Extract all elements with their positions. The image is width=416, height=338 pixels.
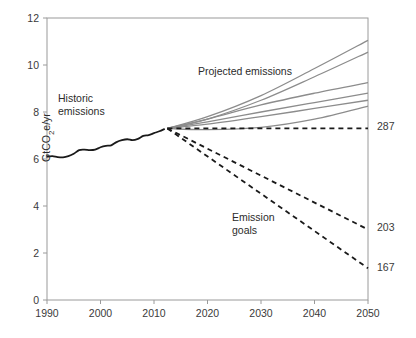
series-projection-d <box>167 93 368 128</box>
x-tick-label-2050: 2050 <box>356 307 380 319</box>
y-axis-title-sub: 2 <box>47 131 56 135</box>
axis-tick-labels: 1990200020102020203020402050024681012 <box>27 12 380 319</box>
series-goal-167 <box>167 128 368 268</box>
annotation-goals-line2: goals <box>232 224 275 237</box>
x-tick-label-2020: 2020 <box>196 307 220 319</box>
series-historic-emissions <box>47 129 165 157</box>
x-tick-label-2040: 2040 <box>303 307 327 319</box>
annotation-goals-line1: Emission <box>232 211 275 224</box>
y-tick-label-8: 8 <box>33 106 39 118</box>
y-axis-title-pre: GtCO <box>40 135 52 162</box>
end-label-287: 287 <box>377 120 395 132</box>
x-tick-label-2030: 2030 <box>249 307 273 319</box>
chart-canvas: 1990200020102020203020402050024681012 <box>0 0 416 338</box>
x-tick-label-2000: 2000 <box>89 307 113 319</box>
y-tick-label-4: 4 <box>33 200 39 212</box>
y-tick-label-2: 2 <box>33 247 39 259</box>
axis-ticks <box>43 18 368 304</box>
y-tick-label-6: 6 <box>33 153 39 165</box>
annotation-emission-goals: Emission goals <box>232 211 275 237</box>
end-label-203: 203 <box>377 221 395 233</box>
y-tick-label-0: 0 <box>33 294 39 306</box>
axes-frame <box>47 18 368 300</box>
emissions-chart-figure: 1990200020102020203020402050024681012 Gt… <box>0 0 416 338</box>
annotation-historic-emissions: Historic emissions <box>58 92 105 118</box>
annotation-historic-line1: Historic <box>58 92 105 105</box>
end-label-167: 167 <box>377 261 395 273</box>
series-projection-b <box>167 52 368 128</box>
x-tick-label-1990: 1990 <box>35 307 59 319</box>
series-projection-f-lowest <box>167 106 368 130</box>
y-axis-title: GtCO2e/yr <box>40 78 55 198</box>
series-projection-c <box>167 83 368 129</box>
annotation-projected-emissions: Projected emissions <box>198 65 292 77</box>
y-tick-label-12: 12 <box>27 12 39 24</box>
annotation-historic-line2: emissions <box>58 105 105 118</box>
plot-frame <box>47 18 368 300</box>
x-tick-label-2010: 2010 <box>142 307 166 319</box>
y-tick-label-10: 10 <box>27 59 39 71</box>
y-axis-title-post: e/yr <box>40 113 52 131</box>
